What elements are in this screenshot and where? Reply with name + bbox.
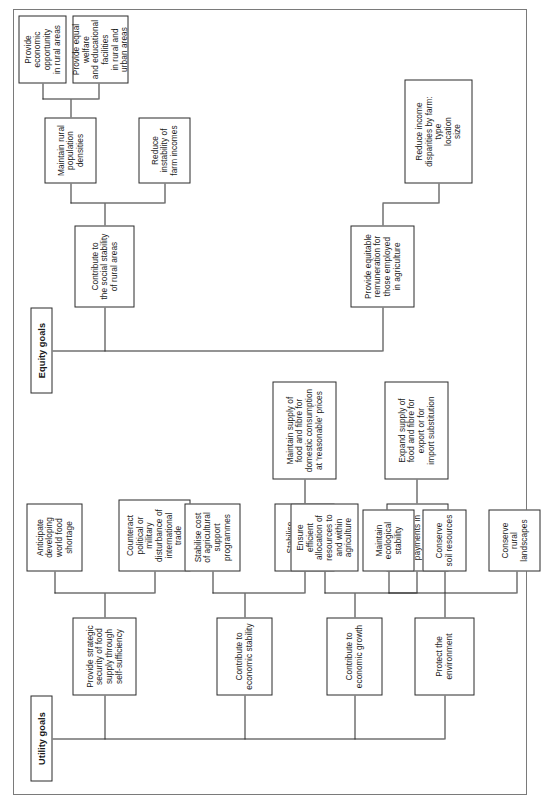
node-equitable-remuneration: Provide equitable remuneration for those… [350, 226, 414, 308]
economic-growth-stem [354, 594, 355, 618]
node-reduce-income-disparities: Reduce income disparities by farm: type … [404, 80, 472, 184]
node-maintain-rural-population-densities: Maintain rural population densities [44, 118, 96, 184]
node-protect-environment: Protect the environment [414, 618, 474, 696]
figure-page: Utility goals Provide strategic security… [0, 0, 541, 807]
economic-stability-stem [244, 594, 245, 618]
social-stability-grandchild-stem [70, 100, 71, 118]
utility-connector-environment [444, 696, 445, 740]
remuneration-stem [382, 204, 383, 226]
node-anticipate-world-food-shortage: Anticipate developing world food shortag… [26, 504, 82, 572]
food-security-child1-link [54, 572, 55, 594]
environment-child1-link [388, 572, 389, 594]
node-maintain-ecological-stability: Maintain ecological stability [362, 510, 414, 572]
economic-stability-child2-link [304, 572, 305, 594]
social-stability-child2-link [164, 184, 165, 204]
utility-connector-economic-stability [244, 696, 245, 740]
equity-goals-title: Equity goals [30, 308, 52, 394]
node-provide-economic-opportunity: Provide economic opportunity in rural ar… [18, 16, 66, 84]
node-economic-growth: Contribute to economic growth [326, 618, 382, 696]
node-economic-stability: Contribute to economic stability [216, 618, 272, 696]
food-security-child2-link [154, 572, 155, 594]
node-social-stability-rural: Contribute to the social stability of ru… [74, 226, 134, 308]
equity-connector-remuneration [382, 308, 383, 352]
social-stability-stem [104, 204, 105, 226]
node-stabilise-support-cost: Stabilise cost of agricultural support p… [184, 504, 240, 572]
node-efficient-allocation: Ensure efficient allocation of resources… [290, 504, 358, 572]
economic-growth-child2-link [416, 572, 417, 594]
economic-stability-spine [212, 593, 304, 594]
economic-growth-grandchild-link [416, 480, 417, 504]
environment-spine [388, 593, 516, 594]
node-conserve-soil-resources: Conserve soil resources [422, 510, 466, 572]
node-provide-equal-welfare-education: Provide equal welfare and educational fa… [72, 16, 128, 84]
environment-stem [444, 594, 445, 618]
utility-trunk-vertical [52, 739, 444, 740]
social-stability-spine [70, 203, 164, 204]
food-security-stem [104, 594, 105, 618]
food-security-spine [54, 593, 154, 594]
node-expand-supply-export: Expand supply of food and fibre for expo… [384, 382, 448, 480]
economic-growth-child1-link [324, 572, 325, 594]
utility-goals-title: Utility goals [30, 696, 52, 782]
social-stability-child1-link [70, 184, 71, 204]
node-conserve-rural-landscapes: Conserve rural landscapes [488, 510, 540, 572]
economic-stability-grandchild-link [304, 480, 305, 504]
economic-stability-child1-link [212, 572, 213, 594]
equity-trunk-vertical [52, 351, 382, 352]
remuneration-child-link [438, 184, 439, 204]
utility-connector-food-security [104, 696, 105, 740]
environment-child3-link [516, 572, 517, 594]
node-food-security: Provide strategic security of food suppl… [72, 618, 136, 696]
node-counteract-disturbance-trade: Counteract political or military disturb… [118, 500, 190, 572]
utility-connector-economic-growth [354, 696, 355, 740]
social-stability-grandchild-spine [42, 99, 98, 100]
equity-connector-social-stability [104, 308, 105, 352]
grandchild2-link [98, 84, 99, 100]
diagram-stage: Utility goals Provide strategic security… [18, 14, 523, 794]
grandchild1-link [42, 84, 43, 100]
node-reduce-farm-income-instability: Reduce instability of farm incomes [138, 118, 190, 184]
node-maintain-domestic-supply: Maintain supply of food and fibre for do… [272, 382, 336, 480]
environment-child2-link [444, 572, 445, 594]
remuneration-spine [382, 203, 438, 204]
